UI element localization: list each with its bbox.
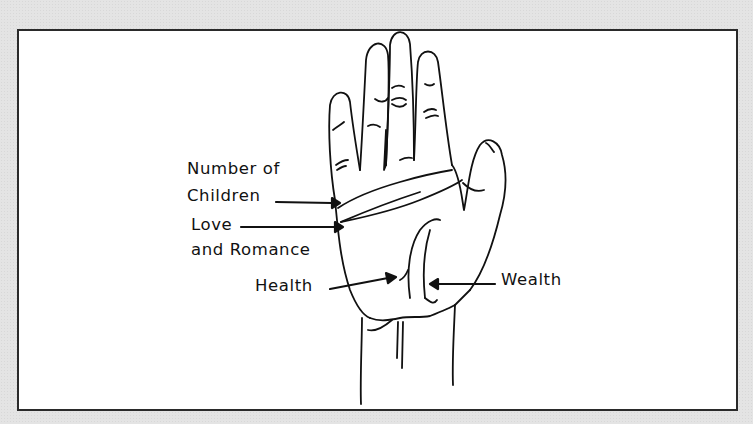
label-love-line1: Love: [191, 217, 232, 234]
label-health: Health: [255, 278, 313, 295]
label-wealth: Wealth: [501, 272, 562, 289]
label-number-of-children-line2: Children: [187, 188, 260, 205]
love-line: [341, 180, 462, 222]
hand-illustration: [0, 0, 753, 424]
thumb: [452, 140, 506, 290]
label-number-of-children-line1: Number of: [187, 161, 280, 178]
index-finger: [329, 93, 360, 200]
wrist: [370, 305, 455, 320]
wealth-line: [424, 230, 430, 298]
finger-gap: [384, 130, 386, 170]
label-love-line2: and Romance: [191, 242, 311, 259]
children-line: [338, 170, 452, 208]
